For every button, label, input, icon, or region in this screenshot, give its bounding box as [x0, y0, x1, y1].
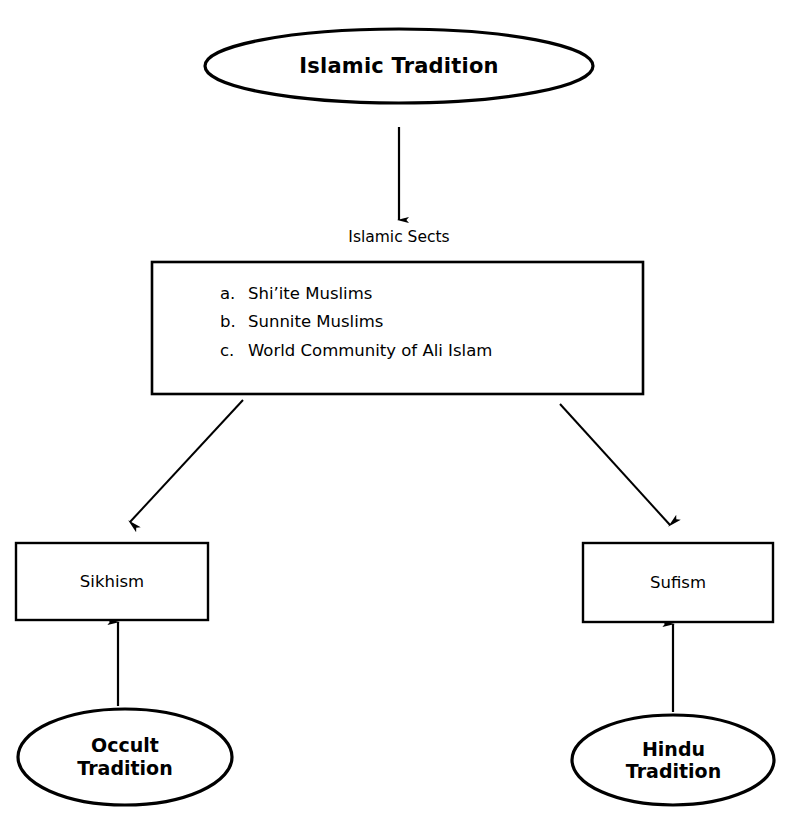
- sects-ordered-list: a. Shi’ite Muslims b. Sunnite Muslims c.…: [220, 282, 643, 362]
- list-item-marker: c.: [220, 339, 248, 362]
- list-item: a. Shi’ite Muslims: [220, 282, 643, 305]
- arrow-sects-to-sikhism: [130, 400, 243, 522]
- node-shape-hindu-tradition: [572, 715, 774, 805]
- list-item-marker: a.: [220, 282, 248, 305]
- diagram-canvas-root: Islamic Tradition Islamic Sects a. Shi’i…: [0, 0, 788, 823]
- diagram-vector-layer: [0, 0, 788, 823]
- arrow-sects-to-sufism: [560, 404, 670, 525]
- node-shape-sikhism: [16, 543, 208, 620]
- list-item-label: Shi’ite Muslims: [248, 282, 372, 305]
- node-shape-islamic-tradition: [205, 29, 593, 103]
- node-shape-sufism: [583, 543, 773, 622]
- node-shape-occult-tradition: [18, 709, 232, 805]
- list-item-label: Sunnite Muslims: [248, 310, 383, 333]
- list-item: b. Sunnite Muslims: [220, 310, 643, 333]
- islamic-sects-list: a. Shi’ite Muslims b. Sunnite Muslims c.…: [152, 262, 643, 394]
- list-item-label: World Community of Ali Islam: [248, 339, 492, 362]
- list-item: c. World Community of Ali Islam: [220, 339, 643, 362]
- list-item-marker: b.: [220, 310, 248, 333]
